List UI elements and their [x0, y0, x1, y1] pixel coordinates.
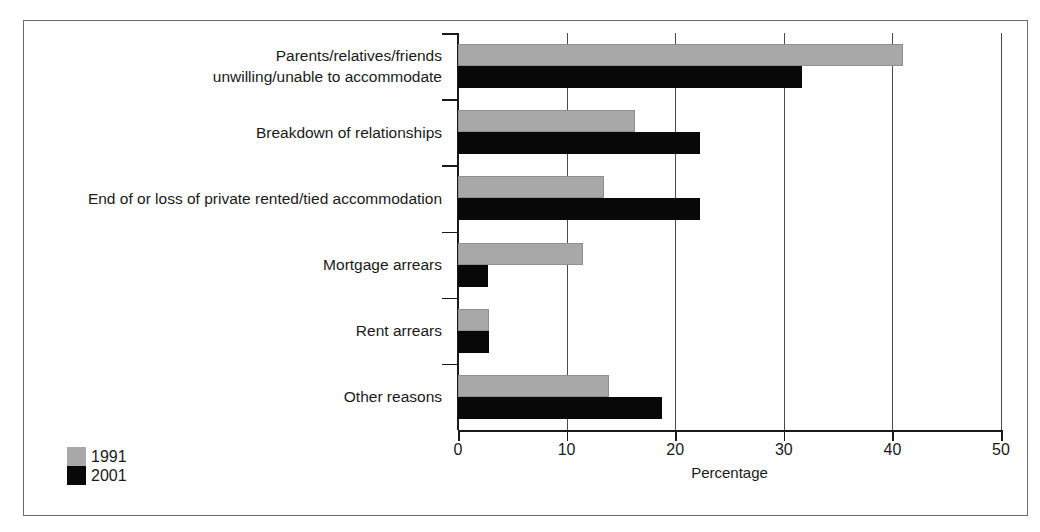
legend-item-1991: 1991 [67, 447, 127, 466]
chart-frame: Parents/relatives/friendsunwilling/unabl… [23, 20, 1028, 516]
bar-2001 [458, 397, 662, 419]
bar-1991 [458, 44, 903, 66]
category-label-line: Mortgage arrears [24, 254, 442, 275]
bar-1991 [458, 176, 604, 198]
x-axis-title: Percentage [458, 464, 1001, 481]
x-tick-10 [567, 432, 569, 441]
category-separator-1 [442, 99, 458, 101]
category-separator-5 [442, 364, 458, 366]
legend-swatch-2001 [67, 466, 86, 485]
category-label-line: Breakdown of relationships [24, 122, 442, 143]
category-label-line: Rent arrears [24, 320, 442, 341]
x-tick-label-0: 0 [428, 441, 488, 459]
x-tick-label-30: 30 [754, 441, 814, 459]
gridline-20 [675, 33, 676, 431]
gridline-50 [1001, 33, 1002, 431]
bar-group [458, 375, 1001, 419]
x-tick-50 [1001, 432, 1003, 441]
x-tick-label-50: 50 [971, 441, 1031, 459]
chart-figure: Parents/relatives/friendsunwilling/unabl… [0, 0, 1040, 532]
x-tick-30 [784, 432, 786, 441]
bar-group [458, 309, 1001, 353]
bar-2001 [458, 265, 488, 287]
x-tick-label-40: 40 [862, 441, 922, 459]
category-separator-4 [442, 298, 458, 300]
category-label: Parents/relatives/friendsunwilling/unabl… [24, 45, 454, 87]
legend-label-2001: 2001 [91, 466, 127, 485]
x-tick-20 [675, 432, 677, 441]
bar-1991 [458, 309, 489, 331]
x-axis-line [458, 430, 1003, 432]
x-tick-40 [892, 432, 894, 441]
bar-2001 [458, 132, 700, 154]
bar-2001 [458, 198, 700, 220]
category-separator-0 [442, 33, 458, 35]
legend-item-2001: 2001 [67, 466, 127, 485]
bar-group [458, 110, 1001, 154]
bar-group [458, 243, 1001, 287]
x-tick-0 [458, 432, 460, 441]
category-label: Other reasons [24, 386, 454, 407]
x-tick-label-10: 10 [537, 441, 597, 459]
category-label-line: Parents/relatives/friends [24, 45, 442, 66]
category-label-line: End of or loss of private rented/tied ac… [24, 188, 442, 209]
category-label: Mortgage arrears [24, 254, 454, 275]
gridline-10 [567, 33, 568, 431]
bar-2001 [458, 331, 489, 353]
legend-label-1991: 1991 [91, 447, 127, 466]
bar-group [458, 44, 1001, 88]
category-label: Breakdown of relationships [24, 122, 454, 143]
category-separator-2 [442, 165, 458, 167]
bar-1991 [458, 110, 635, 132]
category-label-line: unwilling/unable to accommodate [24, 66, 442, 87]
category-label: Rent arrears [24, 320, 454, 341]
legend-swatch-1991 [67, 447, 86, 466]
category-label-line: Other reasons [24, 386, 442, 407]
gridline-40 [892, 33, 893, 431]
gridline-30 [784, 33, 785, 431]
chart-legend: 1991 2001 [67, 447, 127, 485]
category-label: End of or loss of private rented/tied ac… [24, 188, 454, 209]
bar-2001 [458, 66, 802, 88]
bar-1991 [458, 243, 583, 265]
bar-1991 [458, 375, 609, 397]
category-separator-3 [442, 232, 458, 234]
x-tick-label-20: 20 [645, 441, 705, 459]
bar-group [458, 176, 1001, 220]
